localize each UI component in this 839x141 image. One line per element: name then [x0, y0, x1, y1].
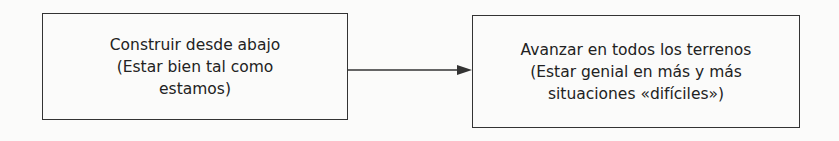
arrow-connector — [347, 62, 474, 78]
node-line: Construir desde abajo — [110, 34, 280, 56]
node-line: situaciones «difíciles») — [548, 83, 724, 105]
node-construir-desde-abajo: Construir desde abajo (Estar bien tal co… — [42, 13, 348, 120]
arrowhead-icon — [457, 65, 472, 75]
node-line: (Estar genial en más y más — [530, 61, 742, 83]
node-avanzar-en-todos-los-terrenos: Avanzar en todos los terrenos (Estar gen… — [472, 15, 800, 128]
node-line: (Estar bien tal como — [117, 56, 274, 78]
node-line: estamos) — [159, 78, 231, 100]
node-line: Avanzar en todos los terrenos — [521, 39, 752, 61]
